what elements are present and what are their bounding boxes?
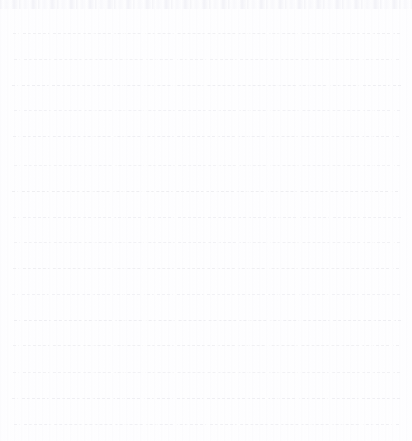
ruled-line: [13, 33, 400, 34]
ruled-line: [13, 268, 399, 269]
ruled-line: [12, 398, 400, 399]
ruled-line: [14, 165, 400, 166]
ruled-line: [12, 294, 400, 295]
ruled-line: [13, 136, 399, 137]
ruled-lines-layer: [0, 0, 412, 441]
ruled-line: [14, 320, 401, 321]
ruled-line: [12, 85, 401, 86]
ruled-line: [13, 345, 399, 346]
ruled-line: [12, 191, 398, 192]
ruled-line: [14, 59, 399, 60]
ruled-line: [14, 110, 400, 111]
ruled-line: [13, 217, 401, 218]
ruled-line: [14, 424, 399, 425]
ruled-line: [14, 242, 400, 243]
scanned-page: [0, 0, 412, 441]
ruled-line: [13, 372, 400, 373]
